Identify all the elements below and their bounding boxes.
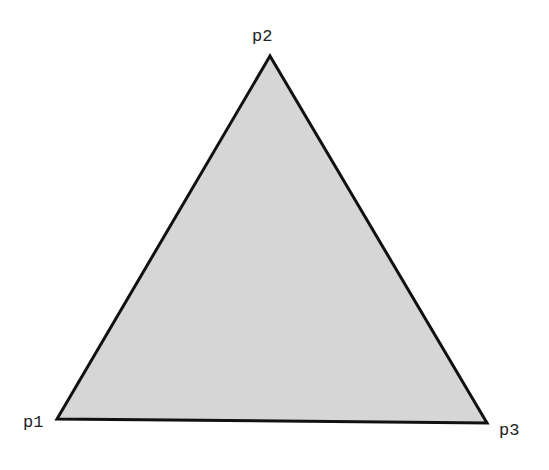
triangle-diagram	[0, 0, 549, 470]
vertex-label-p3: p3	[499, 422, 519, 439]
vertex-label-p2: p2	[252, 28, 272, 45]
triangle-shape	[57, 56, 487, 423]
vertex-label-p1: p1	[23, 414, 43, 431]
